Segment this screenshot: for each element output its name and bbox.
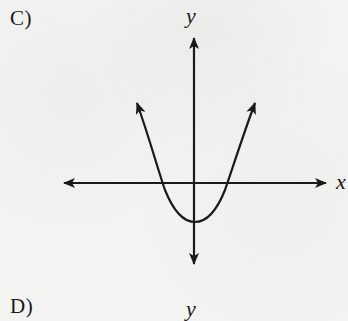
option-d-label: D) bbox=[10, 294, 33, 319]
y-axis-label-d: y bbox=[186, 296, 196, 321]
parabola-graph bbox=[0, 0, 348, 321]
parabola-curve bbox=[137, 103, 255, 222]
